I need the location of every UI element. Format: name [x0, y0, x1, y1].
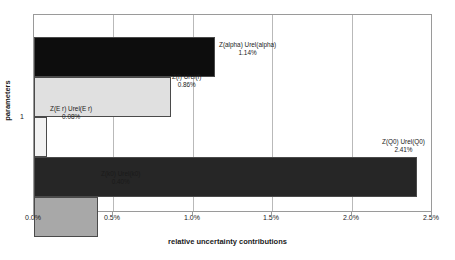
x-tick-label-4: 2.0%: [343, 214, 359, 221]
x-tick-label-0: 0.0%: [25, 214, 41, 221]
data-label-name: Z(E r) Urel(E r): [50, 105, 92, 113]
data-label-name: Z(Q0) Urel(Q0): [382, 138, 425, 146]
bar-z-alpha[interactable]: [34, 37, 215, 77]
x-tick-labels: 0.0% 0.5% 1.0% 1.5% 2.0% 2.5%: [0, 214, 455, 226]
data-label-z-k0: Z(k0) Urel(k0) 0.40%: [101, 170, 140, 186]
data-label-name: Z(f) Urel(f): [172, 73, 201, 81]
y-axis-title: parameters: [3, 71, 12, 131]
data-label-value: 1.14%: [219, 49, 276, 57]
chart-figure: Z(alpha) Urel(alpha) 1.14% Z(f) Urel(f) …: [0, 0, 455, 260]
data-label-value: 0.08%: [50, 113, 92, 121]
data-label-value: 0.86%: [172, 81, 201, 89]
x-tick-label-2: 1.0%: [184, 214, 200, 221]
bar-z-q0[interactable]: [34, 157, 417, 197]
data-label-value: 0.40%: [101, 178, 140, 186]
data-label-name: Z(k0) Urel(k0): [101, 170, 140, 178]
x-tick-label-3: 1.5%: [263, 214, 279, 221]
data-label-value: 2.41%: [382, 146, 425, 154]
data-label-z-q0: Z(Q0) Urel(Q0) 2.41%: [382, 138, 425, 154]
x-axis-title: relative uncertainty contributions: [0, 237, 455, 246]
data-label-z-f: Z(f) Urel(f) 0.86%: [172, 73, 201, 89]
bar-z-er[interactable]: [34, 117, 47, 157]
x-tick-label-1: 0.5%: [104, 214, 120, 221]
data-label-z-er: Z(E r) Urel(E r) 0.08%: [50, 105, 92, 121]
data-label-name: Z(alpha) Urel(alpha): [219, 41, 276, 49]
y-tick-label-1: 1: [20, 113, 24, 120]
x-tick-label-5: 2.5%: [423, 214, 439, 221]
data-label-z-alpha: Z(alpha) Urel(alpha) 1.14%: [219, 41, 276, 57]
